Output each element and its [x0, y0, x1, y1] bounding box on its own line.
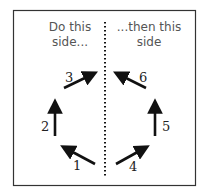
step-label-6: 6 [139, 70, 147, 85]
step-label-5: 5 [162, 119, 170, 134]
step-label-1: 1 [73, 158, 81, 173]
step-label-3: 3 [65, 70, 73, 85]
step-label-2: 2 [41, 119, 49, 134]
diagram-frame: 1 2 3 4 5 6 Do this side... ...then this… [0, 0, 209, 192]
right-heading: ...then this side [108, 20, 190, 50]
right-heading-line-2: side [108, 35, 190, 50]
right-heading-line-1: ...then this [108, 20, 190, 35]
step-label-4: 4 [129, 159, 137, 174]
left-heading: Do this side... [40, 20, 100, 50]
left-heading-line-2: side... [40, 35, 100, 50]
left-heading-line-1: Do this [40, 20, 100, 35]
